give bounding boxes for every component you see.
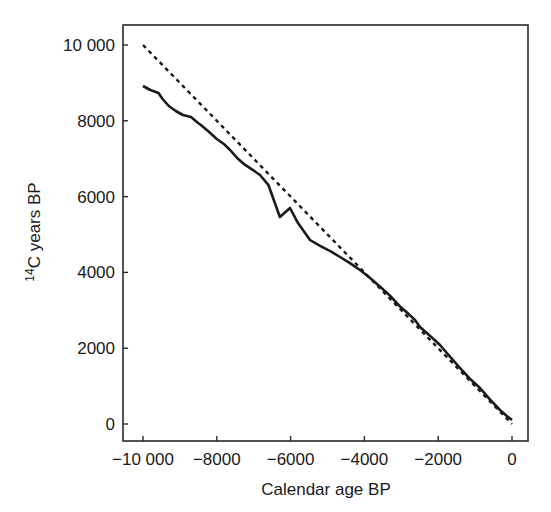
- y-tick-label: 6000: [77, 188, 115, 207]
- y-axis-title-superscript: 14: [23, 268, 37, 282]
- x-tick-label: −10 000: [112, 450, 174, 469]
- x-tick-label: −6000: [267, 450, 315, 469]
- y-tick-label: 0: [106, 415, 115, 434]
- x-tick-label: 0: [507, 450, 516, 469]
- calibration-chart: −10 000−8000−6000−4000−20000 02000400060…: [0, 0, 551, 512]
- y-tick-label: 2000: [77, 339, 115, 358]
- x-axis-title: Calendar age BP: [261, 480, 390, 499]
- y-tick-label: 4000: [77, 263, 115, 282]
- x-tick-label: −4000: [341, 450, 389, 469]
- y-tick-label: 8000: [77, 112, 115, 131]
- y-axis-title: 14C years BP: [23, 182, 44, 281]
- y-axis-ticks: 0200040006000800010 000: [63, 36, 128, 434]
- calibration-curve-solid: [143, 86, 512, 420]
- x-tick-label: −8000: [193, 450, 241, 469]
- reference-line-dashed: [143, 45, 512, 424]
- y-axis-title-rest: C years BP: [25, 182, 44, 268]
- y-tick-label: 10 000: [63, 36, 115, 55]
- x-tick-label: −2000: [414, 450, 462, 469]
